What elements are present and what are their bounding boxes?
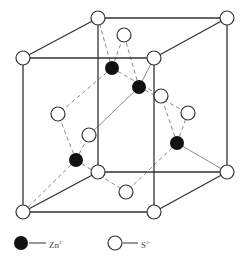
- legend-zn-icon: [14, 236, 28, 250]
- legend-s-icon: [108, 236, 122, 250]
- s-ion-ftl: [16, 51, 30, 65]
- zn-symbol: Zn: [49, 240, 59, 250]
- s-ion-left: [51, 107, 65, 121]
- depth-edge-0: [23, 18, 98, 58]
- depth-edge-2: [154, 172, 227, 212]
- atoms-layer: [16, 11, 234, 219]
- bond-zn1-left: [58, 68, 112, 114]
- bond-zn3-fbl: [23, 160, 76, 212]
- legend-zn-label: Zn2+: [49, 238, 64, 250]
- zn-ion-zn1: [105, 61, 119, 75]
- s-ion-bbr: [220, 165, 234, 179]
- s-ion-fbr: [147, 205, 161, 219]
- s-ion-btr: [220, 11, 234, 25]
- s-ion-btl: [91, 11, 105, 25]
- zn-ion-zn3: [69, 153, 83, 167]
- bond-zn4-bottom: [126, 143, 177, 192]
- zn-ion-zn4: [170, 136, 184, 150]
- zn-charge: 2+: [59, 240, 64, 245]
- s-ion-bottom: [119, 185, 133, 199]
- zincblende-unit-cell-diagram: [0, 0, 246, 267]
- s-charge: 2−: [146, 240, 151, 245]
- bond-zn2-front: [89, 87, 139, 135]
- bond-zn1-btl: [98, 18, 112, 68]
- s-ion-ftr: [147, 51, 161, 65]
- bond-zn4-bbr: [177, 143, 227, 172]
- s-ion-right: [181, 106, 195, 120]
- s-ion-bbl: [91, 165, 105, 179]
- s-ion-back: [154, 89, 168, 103]
- legend-graphics: [14, 236, 138, 250]
- zn-ion-zn2: [132, 80, 146, 94]
- s-ion-fbl: [16, 205, 30, 219]
- depth-edge-1: [154, 18, 227, 58]
- legend-s-label: S2−: [141, 238, 151, 250]
- s-ion-top: [117, 28, 131, 42]
- depth-edge-3: [23, 172, 98, 212]
- s-ion-front: [82, 128, 96, 142]
